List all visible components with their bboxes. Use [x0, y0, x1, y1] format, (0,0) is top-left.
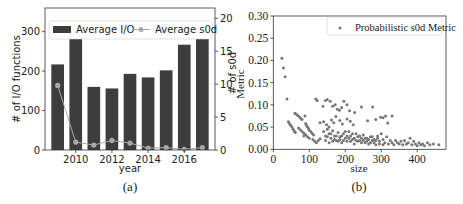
caption-a: (a) — [123, 179, 137, 194]
scatter-point — [353, 111, 356, 114]
scatter-point — [335, 134, 338, 137]
scatter-point — [347, 137, 350, 140]
scatter-point — [349, 140, 352, 143]
scatter-point — [319, 121, 322, 124]
scatter-point — [362, 139, 365, 142]
y-tick-label: 0.15 — [248, 77, 268, 89]
scatter-point — [351, 132, 354, 135]
scatter-point — [340, 134, 343, 137]
y-tick-label: 0.05 — [248, 121, 268, 133]
bar-average-io — [69, 28, 82, 150]
marker-average-s0d — [127, 140, 132, 145]
scatter-point — [382, 116, 385, 119]
scatter-point — [334, 115, 337, 118]
scatter-point — [329, 132, 332, 135]
scatter-point — [416, 144, 419, 147]
scatter-point — [342, 100, 345, 103]
x-tick-label: 400 — [409, 153, 427, 165]
bar-average-io — [124, 74, 137, 150]
scatter-point — [378, 142, 381, 145]
y2-tick-label: 5 — [220, 112, 226, 123]
y-axis-label: # of I/O functions — [11, 35, 22, 123]
scatter-point — [373, 138, 376, 141]
x-tick-label: 2010 — [63, 154, 88, 165]
scatter-point — [282, 66, 285, 69]
scatter-point — [412, 140, 415, 143]
marker-average-s0d — [91, 142, 96, 147]
scatter-point — [330, 118, 333, 121]
scatter-point — [325, 123, 328, 126]
scatter-point — [426, 141, 429, 144]
scatter-point — [374, 118, 377, 121]
scatter-point — [312, 134, 315, 137]
legend: Probabilistic s0d Metric — [327, 17, 456, 35]
legend-label-average-s0d: Average s0d — [155, 24, 217, 35]
scatter-point — [326, 135, 329, 138]
chart-b-s0d-metric-scatter: 0.000.050.100.150.200.250.30010020030040… — [234, 10, 456, 194]
legend-marker — [339, 27, 342, 30]
scatter-point — [347, 130, 350, 133]
bar-average-io — [178, 45, 191, 150]
x-axis-label: size — [350, 162, 367, 174]
scatter-point — [365, 137, 368, 140]
y-axis-label: Metric — [234, 69, 246, 98]
y-tick-label: 0.25 — [248, 32, 268, 44]
scatter-point — [334, 103, 337, 106]
scatter-point — [333, 138, 336, 141]
marker-average-s0d — [164, 145, 169, 150]
scatter-point — [284, 75, 287, 78]
marker-average-s0d — [73, 139, 78, 144]
scatter-point — [392, 143, 395, 146]
scatter-point — [401, 143, 404, 146]
y-tick-label: 200 — [21, 66, 40, 77]
scatter-point — [346, 118, 349, 121]
scatter-point — [328, 141, 331, 144]
scatter-point — [382, 138, 385, 141]
scatter-point — [324, 139, 327, 142]
scatter-point — [337, 131, 340, 134]
y-tick-label: 0 — [34, 145, 40, 156]
scatter-point — [326, 128, 329, 131]
scatter-point — [391, 114, 394, 117]
scatter-point — [387, 142, 390, 145]
scatter-point — [403, 139, 406, 142]
scatter-point — [384, 114, 387, 117]
marker-average-s0d — [109, 138, 114, 143]
scatter-point — [385, 135, 388, 138]
scatter-point — [379, 116, 382, 119]
legend-line-marker — [139, 27, 144, 32]
scatter-point — [437, 143, 440, 146]
bar-average-io — [88, 87, 101, 150]
scatter-point — [349, 120, 352, 123]
scatter-point — [280, 57, 283, 60]
scatter-point — [400, 140, 403, 143]
scatter-point — [346, 140, 349, 143]
scatter-point — [340, 106, 343, 109]
scatter-point — [322, 120, 325, 123]
scatter-point — [355, 139, 358, 142]
x-tick-label: 2016 — [172, 154, 197, 165]
caption-b: (b) — [351, 179, 366, 194]
scatter-point — [376, 134, 379, 137]
scatter-point — [332, 121, 335, 124]
scatter-point — [382, 143, 385, 146]
scatter-point — [428, 143, 431, 146]
x-tick-label: 300 — [373, 153, 391, 165]
x-axis-label: year — [119, 163, 142, 174]
scatter-point — [366, 119, 369, 122]
scatter-point — [380, 132, 383, 135]
scatter-point — [369, 141, 372, 144]
scatter-point — [386, 122, 389, 125]
scatter-point — [346, 103, 349, 106]
scatter-point — [319, 137, 322, 140]
bar-average-io — [142, 77, 155, 150]
scatter-point — [371, 135, 374, 138]
y-tick-label: 0.10 — [248, 99, 268, 111]
figure: 0100200300051015202010201220142016year# … — [0, 0, 463, 204]
x-tick-label: 0 — [270, 153, 276, 165]
scatter-point — [321, 105, 324, 108]
scatter-point — [316, 99, 319, 102]
scatter-point — [432, 142, 435, 145]
scatter-point — [344, 130, 347, 133]
scatter-point — [423, 144, 426, 147]
